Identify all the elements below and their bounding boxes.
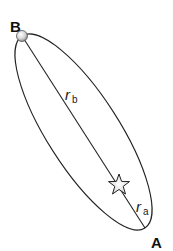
point-b-label: B <box>10 18 21 35</box>
r-b-label: r b <box>65 86 78 105</box>
major-axis-line <box>22 36 145 228</box>
svg-text:a: a <box>143 206 149 217</box>
r-a-label: r a <box>136 198 149 217</box>
svg-text:r: r <box>65 86 71 103</box>
orbit-diagram: B A r b r a <box>0 0 173 251</box>
point-a-label: A <box>151 234 162 251</box>
svg-text:b: b <box>72 94 78 105</box>
svg-text:r: r <box>136 198 142 215</box>
star-icon <box>109 174 130 194</box>
